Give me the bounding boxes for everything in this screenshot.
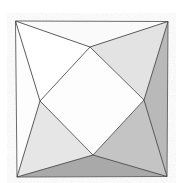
- geometric-figure: [0, 0, 185, 183]
- figure-container: [0, 0, 185, 183]
